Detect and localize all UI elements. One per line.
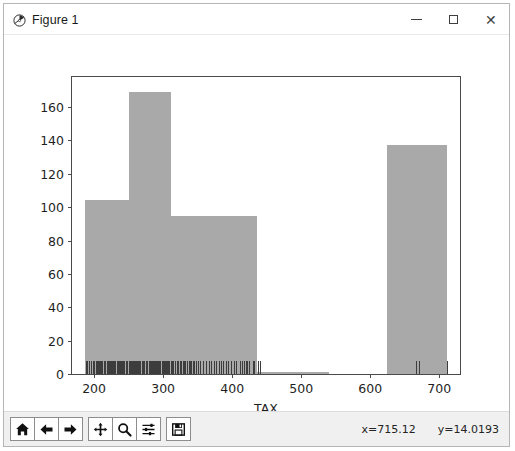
- navigation-toolbar: x=715.12 y=14.0193: [4, 411, 509, 446]
- y-tick-label: 160: [40, 100, 64, 115]
- rug-mark: [242, 361, 243, 374]
- close-button[interactable]: ✕: [472, 4, 509, 35]
- rug-mark: [234, 361, 235, 374]
- maximize-button[interactable]: [435, 4, 472, 35]
- rug-mark: [221, 361, 222, 374]
- y-tick-mark: [68, 207, 72, 208]
- title-bar: Figure 1 ✕: [4, 4, 509, 35]
- histogram-bar: [387, 145, 447, 374]
- y-tick-mark: [68, 107, 72, 108]
- x-tick-label: 500: [289, 381, 313, 396]
- rug-mark: [216, 361, 217, 374]
- x-tick-mark: [370, 374, 371, 378]
- x-tick-label: 200: [82, 381, 106, 396]
- pan-icon: [93, 422, 108, 437]
- rug-mark: [194, 361, 195, 374]
- title-bar-left: Figure 1: [13, 4, 79, 35]
- rug-mark: [219, 361, 220, 374]
- minimize-button[interactable]: [398, 4, 435, 35]
- y-tick-label: 60: [48, 266, 64, 281]
- y-tick-label: 40: [48, 300, 64, 315]
- rug-mark: [226, 361, 227, 374]
- figure-canvas[interactable]: 020406080100120140160200300400500600700 …: [4, 35, 509, 411]
- rug-mark: [260, 361, 261, 374]
- y-tick-label: 140: [40, 133, 64, 148]
- x-axis-label: TAX: [254, 401, 278, 411]
- save-button[interactable]: [166, 417, 191, 441]
- y-tick-mark: [68, 274, 72, 275]
- x-tick-label: 700: [427, 381, 451, 396]
- y-tick-label: 120: [40, 166, 64, 181]
- plot-area: [72, 77, 460, 374]
- coordinate-status: x=715.12 y=14.0193: [362, 412, 499, 447]
- rug-plot: [72, 360, 460, 374]
- rug-mark: [214, 361, 215, 374]
- x-tick-mark: [94, 374, 95, 378]
- toolbar-buttons: [10, 417, 190, 441]
- x-tick-mark: [232, 374, 233, 378]
- matplotlib-icon: [13, 13, 26, 26]
- y-tick-label: 100: [40, 200, 64, 215]
- forward-arrow-icon: [63, 422, 78, 437]
- zoom-magnifier-icon: [117, 422, 132, 437]
- subplot-config-icon: [141, 422, 156, 437]
- close-icon: ✕: [485, 13, 497, 27]
- x-tick-label: 600: [358, 381, 382, 396]
- zoom-button[interactable]: [112, 417, 137, 441]
- save-floppy-icon: [171, 422, 186, 437]
- x-tick-mark: [301, 374, 302, 378]
- y-tick-mark: [68, 341, 72, 342]
- rug-mark: [211, 361, 212, 374]
- maximize-icon: [449, 15, 458, 24]
- back-button[interactable]: [34, 417, 59, 441]
- rug-mark: [187, 361, 188, 374]
- histogram-axes[interactable]: 020406080100120140160200300400500600700 …: [71, 76, 461, 375]
- rug-mark: [196, 361, 197, 374]
- subplot-config-button[interactable]: [136, 417, 161, 441]
- rug-mark: [419, 361, 420, 374]
- rug-mark: [447, 361, 448, 374]
- rug-mark: [231, 361, 232, 374]
- rug-mark: [240, 361, 241, 374]
- y-tick-mark: [68, 307, 72, 308]
- histogram-bar: [85, 200, 128, 374]
- home-button[interactable]: [10, 417, 35, 441]
- window-controls: ✕: [398, 4, 509, 35]
- minimize-icon: [411, 19, 422, 20]
- status-y-value: y=14.0193: [438, 423, 499, 436]
- rug-mark: [244, 361, 245, 374]
- rug-mark: [203, 361, 204, 374]
- rug-mark: [223, 361, 224, 374]
- figure-window: Figure 1 ✕ 02040608010012014016020030040…: [3, 3, 510, 447]
- rug-mark: [258, 361, 259, 374]
- status-x-value: x=715.12: [362, 423, 416, 436]
- rug-mark: [198, 361, 199, 374]
- x-tick-mark: [163, 374, 164, 378]
- rug-mark: [200, 361, 201, 374]
- x-tick-mark: [439, 374, 440, 378]
- histogram-bar: [129, 92, 171, 374]
- rug-mark: [209, 361, 210, 374]
- rug-mark: [254, 361, 255, 374]
- rug-mark: [416, 361, 417, 374]
- rug-mark: [247, 361, 248, 374]
- rug-mark: [206, 361, 207, 374]
- pan-button[interactable]: [88, 417, 113, 441]
- x-tick-label: 400: [220, 381, 244, 396]
- y-tick-mark: [68, 374, 72, 375]
- y-tick-label: 80: [48, 233, 64, 248]
- y-tick-label: 20: [48, 333, 64, 348]
- y-tick-mark: [68, 241, 72, 242]
- x-tick-label: 300: [151, 381, 175, 396]
- rug-mark: [249, 361, 250, 374]
- rug-mark: [228, 361, 229, 374]
- y-tick-mark: [68, 174, 72, 175]
- window-title: Figure 1: [32, 13, 79, 27]
- home-icon: [15, 422, 30, 437]
- y-tick-mark: [68, 140, 72, 141]
- rug-mark: [175, 361, 176, 374]
- histogram-bar: [171, 216, 257, 375]
- forward-button[interactable]: [58, 417, 83, 441]
- y-tick-label: 0: [56, 367, 64, 382]
- rug-mark: [89, 361, 90, 374]
